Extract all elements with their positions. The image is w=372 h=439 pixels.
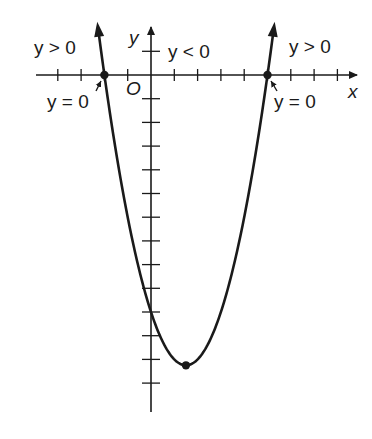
right-root-label: y = 0	[274, 91, 316, 112]
right-region-label: y > 0	[289, 36, 331, 57]
left-arrow-head-icon	[94, 22, 104, 38]
left-region-label: y > 0	[34, 37, 76, 58]
origin-label: O	[126, 78, 141, 99]
x-axis-label: x	[347, 81, 359, 102]
right-root-point	[263, 71, 271, 79]
left-root-label: y = 0	[47, 91, 89, 112]
right-arrow-head-icon	[268, 22, 278, 38]
vertex-point	[182, 361, 190, 369]
parabola-diagram: y > 0 y < 0 y > 0 y = 0 y = 0 y x O	[0, 0, 372, 439]
left-root-point	[100, 71, 108, 79]
y-axis-label: y	[127, 27, 140, 48]
middle-region-label: y < 0	[168, 41, 210, 62]
right-root-pointer-icon	[271, 81, 277, 91]
left-root-pointer-icon	[96, 81, 101, 91]
